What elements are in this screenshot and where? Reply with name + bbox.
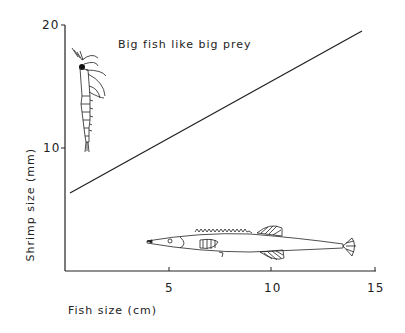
y-tick-label-10: 10	[43, 141, 60, 155]
chart-annotation: Big fish like big prey	[118, 38, 252, 51]
y-axis-label: Shrimp size (mm)	[24, 152, 37, 262]
x-axis-label: Fish size (cm)	[68, 304, 157, 317]
x-tick-label-10: 10	[264, 281, 281, 295]
trend-line	[70, 31, 362, 193]
y-tick-label-20: 20	[42, 18, 59, 32]
x-tick-label-15: 15	[367, 281, 384, 295]
fish-illustration	[147, 226, 356, 260]
shrimp-illustration	[72, 48, 106, 152]
x-tick-label-5: 5	[165, 281, 174, 295]
